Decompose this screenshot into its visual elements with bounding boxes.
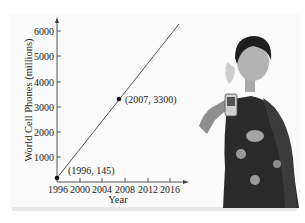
y-tick-label: 6000 [34, 26, 54, 37]
y-axis-label: World Cell Phones (millions) [23, 38, 35, 162]
x-ticks [80, 178, 170, 182]
y-tick-label: 3000 [34, 102, 54, 113]
data-point-1996 [55, 176, 60, 181]
x-axis-arrow-icon [183, 180, 189, 184]
point-label-1996: (1996, 145) [68, 165, 115, 177]
x-tick-label: 2000 [70, 184, 90, 195]
x-axis-label: Year [108, 194, 128, 205]
x-tick-label: 2016 [160, 184, 180, 195]
data-point-2007 [117, 97, 122, 102]
y-tick-labels: 1000 2000 3000 4000 5000 6000 [34, 26, 54, 163]
x-tick-label: 1996 [48, 184, 68, 195]
y-tick-label: 5000 [34, 51, 54, 62]
woman-with-phone-photo [193, 18, 301, 208]
y-axis-arrow-icon [55, 17, 59, 23]
point-label-2007: (2007, 3300) [125, 94, 177, 106]
y-tick-label: 1000 [34, 152, 54, 163]
y-tick-label: 2000 [34, 127, 54, 138]
y-ticks [57, 31, 61, 157]
x-tick-label: 2012 [138, 184, 158, 195]
y-tick-label: 4000 [34, 77, 54, 88]
